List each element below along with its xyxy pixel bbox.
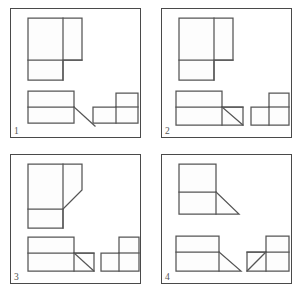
front-view-shape-2 xyxy=(176,91,243,125)
panel-grid: 1 xyxy=(0,0,302,292)
panel-drawing-4 xyxy=(161,154,292,284)
side-view-shape-3 xyxy=(101,237,139,271)
panel-drawing-3 xyxy=(10,154,141,284)
panel-option-2[interactable]: 2 xyxy=(151,0,302,146)
panel-number-4: 4 xyxy=(165,273,170,283)
panel-option-1[interactable]: 1 xyxy=(0,0,151,146)
panel-number-2: 2 xyxy=(165,127,170,137)
top-view-shape-4 xyxy=(179,164,239,214)
panel-drawing-2 xyxy=(161,8,292,138)
top-view-shape-2 xyxy=(179,18,233,80)
figure-root: 1 xyxy=(0,0,302,292)
panel-option-4[interactable]: 4 xyxy=(151,146,302,292)
panel-option-3[interactable]: 3 xyxy=(0,146,151,292)
side-view-shape-2 xyxy=(251,93,289,125)
front-view-shape-3 xyxy=(28,237,94,271)
panel-number-1: 1 xyxy=(14,127,19,137)
side-view-shape-1 xyxy=(93,93,138,123)
front-view-shape-1 xyxy=(28,91,95,126)
front-view-shape-4 xyxy=(176,236,241,271)
panel-number-3: 3 xyxy=(14,273,19,283)
top-view-shape-3 xyxy=(28,164,82,228)
top-view-shape-1 xyxy=(28,18,82,80)
panel-drawing-1 xyxy=(10,8,141,138)
side-view-shape-4 xyxy=(247,236,289,271)
